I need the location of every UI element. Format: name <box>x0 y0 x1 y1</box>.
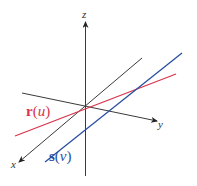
z-axis-label: z <box>81 8 87 20</box>
y-axis-label: y <box>157 118 163 130</box>
line-r-label: r(u) <box>26 103 50 120</box>
line-s-rparen: ) <box>67 148 72 165</box>
line-s-label: s(v) <box>49 148 72 165</box>
line-r-param: u <box>38 103 46 119</box>
diagram-svg: z y x r(u) s(v) <box>0 0 197 186</box>
x-axis-label: x <box>10 158 16 170</box>
diagram-canvas: z y x r(u) s(v) <box>0 0 197 186</box>
line-r-rparen: ) <box>45 103 50 120</box>
line-s <box>45 53 182 162</box>
